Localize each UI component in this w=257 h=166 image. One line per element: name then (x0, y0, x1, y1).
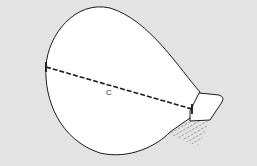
measurement-label-c: C (106, 88, 112, 97)
club-head-diagram (0, 0, 257, 166)
